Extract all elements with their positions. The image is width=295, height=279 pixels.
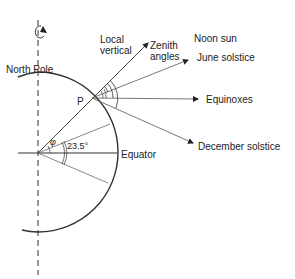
noon-sun-label: Noon sun <box>194 33 237 44</box>
latitude-symbol: φ <box>50 137 56 148</box>
tilt-line-lower <box>38 153 108 183</box>
equinox-ray <box>92 98 198 99</box>
zenith-arc-june <box>104 86 108 92</box>
december-solstice-ray <box>92 98 193 143</box>
local-vertical-label: Local vertical <box>100 34 132 56</box>
sun-angle-diagram <box>0 0 295 279</box>
zenith-angles-label: Zenith angles <box>150 40 179 62</box>
point-p-label: P <box>77 96 84 107</box>
equinoxes-label: Equinoxes <box>206 94 253 105</box>
tilt-angle-label: 23.5° <box>67 141 88 152</box>
june-solstice-label: June solstice <box>197 52 255 63</box>
december-solstice-label: December solstice <box>198 141 280 152</box>
north-pole-label: North Pole <box>6 64 53 75</box>
rotation-arrow-icon <box>35 26 47 38</box>
equator-label: Equator <box>121 149 156 160</box>
zenith-arc-december <box>110 80 118 108</box>
june-solstice-ray <box>92 60 188 98</box>
